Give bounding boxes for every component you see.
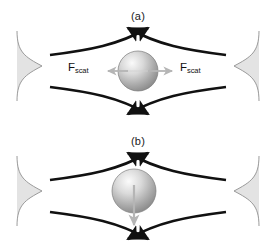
- panel-b-diagram: [0, 125, 276, 249]
- force-symbol: F: [180, 61, 187, 73]
- gaussian-profile-left: [17, 156, 42, 226]
- force-subscript: scat: [187, 66, 200, 75]
- optical-trapping-figure: (a): [0, 0, 276, 249]
- gaussian-profile-right: [234, 156, 259, 226]
- panel-b: (b): [0, 125, 276, 249]
- gaussian-profile-right: [234, 31, 259, 101]
- panel-a-diagram: [0, 0, 276, 124]
- panel-a: (a): [0, 0, 276, 124]
- force-subscript: scat: [75, 66, 88, 75]
- force-label-scat-left: Fscat: [68, 62, 88, 74]
- gaussian-profile-left: [17, 31, 42, 101]
- force-label-scat-right: Fscat: [180, 62, 200, 74]
- force-symbol: F: [68, 61, 75, 73]
